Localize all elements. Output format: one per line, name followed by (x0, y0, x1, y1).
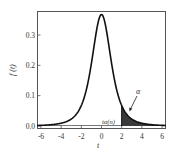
x-tick-label: 0 (100, 132, 104, 141)
x-axis-label: t (97, 141, 100, 150)
x-tick-label: -6 (38, 132, 44, 141)
y-tick-label: 0.0 (26, 122, 36, 131)
alpha-arrow (131, 96, 138, 109)
x-tick-label: -4 (58, 132, 64, 141)
x-tick-label: -2 (78, 132, 84, 141)
alpha-label: α (136, 87, 141, 96)
y-axis-label: f (t) (8, 64, 17, 76)
x-tick-label: 2 (120, 132, 124, 141)
critical-value-label: tα(n) (102, 118, 115, 126)
density-curve (37, 15, 166, 126)
y-tick-label: 0.2 (26, 61, 36, 70)
t-distribution-chart: -6-4-202460.00.10.20.3 α tα(n) t f (t) (0, 0, 175, 156)
y-tick-label: 0.1 (26, 91, 36, 100)
x-tick-label: 6 (160, 132, 164, 141)
x-tick-label: 4 (140, 132, 144, 141)
plot-frame (38, 12, 166, 129)
y-tick-label: 0.3 (26, 31, 36, 40)
